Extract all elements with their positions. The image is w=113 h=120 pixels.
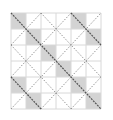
quilt-pattern-diagram [0,0,113,120]
